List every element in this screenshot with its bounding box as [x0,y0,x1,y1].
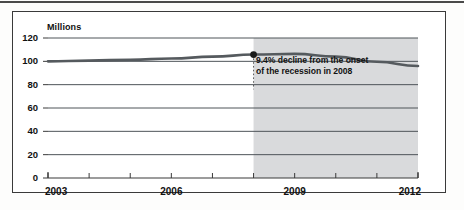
x-tick-label: 2006 [159,186,183,197]
y-tick-label: 20 [12,149,38,160]
y-tick-label: 120 [12,32,38,43]
annotation-line-2: of the recession in 2008 [256,66,368,77]
figure-page: Millions 020406080100120 200320062009201… [0,0,464,210]
y-axis-unit-label: Millions [47,22,81,32]
y-tick-label: 100 [12,55,38,66]
x-tick-label: 2009 [283,186,307,197]
recession-decline-annotation: 9.4% decline from the onset of the reces… [256,55,368,78]
y-tick-label: 60 [12,102,38,113]
y-tick-label: 40 [12,125,38,136]
page-top-rule [0,1,464,3]
annotation-line-1: 9.4% decline from the onset [256,55,368,66]
x-tick-label: 2003 [45,186,69,197]
x-tick-label: 2012 [397,186,421,197]
y-tick-label: 80 [12,79,38,90]
chart-frame [12,11,446,193]
y-tick-label: 0 [12,172,38,183]
